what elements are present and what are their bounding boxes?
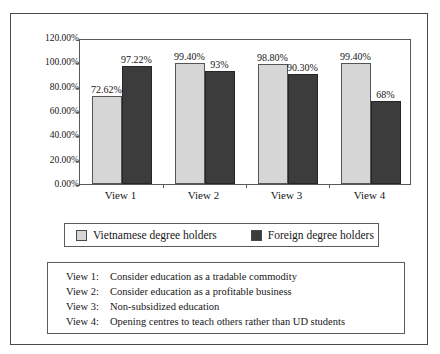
- legend-item-foreign-degree-holders[interactable]: Foreign degree holders: [251, 229, 374, 241]
- view-key: View 4:: [66, 314, 110, 329]
- y-axis-tick-mark: [76, 136, 80, 137]
- y-axis-tick-mark: [76, 185, 80, 186]
- bar-vietnamese-view-1: [92, 96, 122, 184]
- x-axis-category-label: View 4: [328, 190, 411, 201]
- figure-frame: 120.00%100.00%80.00%60.00%40.00%20.00%0.…: [10, 13, 428, 345]
- view-row: View 2: Consider education as a profitab…: [66, 284, 404, 299]
- view-row: View 4: Opening centres to teach others …: [66, 314, 404, 329]
- plot-area: 72.62%97.22%99.40%93%98.80%90.30%99.40%6…: [79, 39, 411, 185]
- bar-vietnamese-view-2: [175, 63, 205, 184]
- y-axis-tick-mark: [76, 112, 80, 113]
- bar-value-label: 97.22%: [110, 55, 164, 65]
- x-axis-category-label: View 2: [162, 190, 245, 201]
- legend-item-label: Vietnamese degree holders: [93, 229, 217, 241]
- y-axis-tick-label: 20.00%: [17, 156, 79, 166]
- bar-value-label: 99.40%: [329, 52, 383, 62]
- y-axis-tick-label: 40.00%: [17, 131, 79, 141]
- chart-legend: Vietnamese degree holders Foreign degree…: [64, 223, 379, 247]
- view-key: View 2:: [66, 284, 110, 299]
- bar-foreign-view-1: [122, 66, 152, 184]
- legend-swatch-icon: [76, 230, 87, 241]
- y-axis-tick-mark: [76, 161, 80, 162]
- y-axis-tick-label: 100.00%: [17, 58, 79, 68]
- view-description: Opening centres to teach others rather t…: [110, 314, 345, 329]
- x-axis-tick-mark: [329, 184, 330, 188]
- legend-item-label: Foreign degree holders: [268, 229, 374, 241]
- x-axis: View 1View 2View 3View 4: [79, 190, 411, 206]
- bar-foreign-view-4: [371, 101, 401, 184]
- bar-value-label: 93%: [193, 60, 247, 70]
- bar-foreign-view-2: [205, 71, 235, 184]
- view-key: View 1:: [66, 269, 110, 284]
- bar-value-label: 90.30%: [276, 63, 330, 73]
- x-axis-tick-mark: [163, 184, 164, 188]
- legend-swatch-icon: [251, 230, 262, 241]
- y-axis-tick-label: 80.00%: [17, 83, 79, 93]
- bar-vietnamese-view-3: [258, 64, 288, 184]
- view-description: Non-subsidized education: [110, 299, 219, 314]
- views-legend-box: View 1: Consider education as a tradable…: [47, 262, 405, 334]
- x-axis-category-label: View 1: [79, 190, 162, 201]
- bar-foreign-view-3: [288, 74, 318, 184]
- legend-item-vietnamese-degree-holders[interactable]: Vietnamese degree holders: [76, 229, 217, 241]
- y-axis-tick-label: 0.00%: [17, 180, 79, 190]
- y-axis-tick-label: 120.00%: [17, 34, 79, 44]
- y-axis-tick-mark: [76, 40, 80, 41]
- view-row: View 3: Non-subsidized education: [66, 299, 404, 314]
- view-key: View 3:: [66, 299, 110, 314]
- bar-vietnamese-view-4: [341, 63, 371, 184]
- x-axis-tick-mark: [246, 184, 247, 188]
- view-description: Consider education as a profitable busin…: [110, 284, 292, 299]
- view-row: View 1: Consider education as a tradable…: [66, 269, 404, 284]
- view-description: Consider education as a tradable commodi…: [110, 269, 297, 284]
- y-axis-tick-label: 60.00%: [17, 107, 79, 117]
- y-axis: 120.00%100.00%80.00%60.00%40.00%20.00%0.…: [11, 14, 79, 210]
- x-axis-category-label: View 3: [245, 190, 328, 201]
- y-axis-tick-mark: [76, 63, 80, 64]
- bar-chart: 120.00%100.00%80.00%60.00%40.00%20.00%0.…: [11, 14, 429, 210]
- bar-value-label: 68%: [359, 90, 413, 100]
